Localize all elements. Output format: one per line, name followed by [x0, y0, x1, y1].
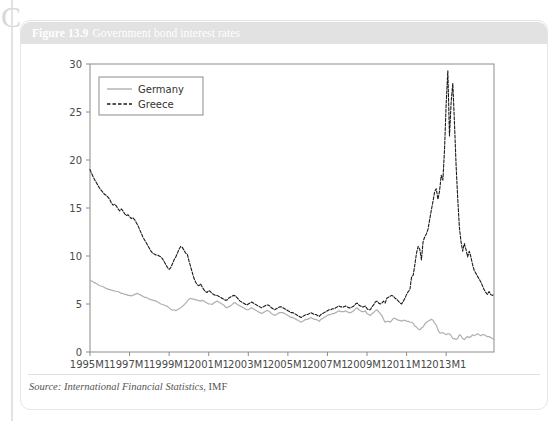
- source-organization: , IMF: [203, 381, 227, 392]
- source-divider: [28, 374, 540, 375]
- page-title: Government bond interest rates: [92, 27, 240, 39]
- source-label: Source:: [29, 381, 61, 392]
- figure-panel: [20, 20, 548, 410]
- figure-page: C Figure 13.9Government bond interest ra…: [0, 0, 560, 421]
- figure-caption: Figure 13.9Government bond interest rate…: [32, 25, 240, 42]
- source-publication: International Financial Statistics: [64, 381, 203, 392]
- figure-number: Figure 13.9: [32, 27, 88, 39]
- source-note: Source: International Financial Statisti…: [29, 381, 227, 392]
- page-spine-rule: [11, 0, 13, 421]
